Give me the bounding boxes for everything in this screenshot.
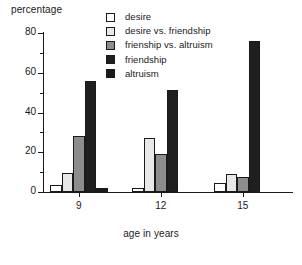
- bar: [96, 188, 108, 192]
- bar: [214, 183, 226, 192]
- bar: [73, 136, 85, 192]
- bar: [226, 174, 238, 192]
- y-tick-label: 40: [0, 107, 36, 117]
- bar: [62, 173, 74, 192]
- y-minor-tick: [40, 53, 43, 54]
- y-tick: [38, 113, 43, 114]
- x-tick: [243, 193, 244, 197]
- y-tick-label: 20: [0, 146, 36, 156]
- x-axis-title: age in years: [0, 228, 302, 239]
- y-tick-label: 80: [0, 27, 36, 37]
- y-tick-label: 0: [0, 186, 36, 196]
- y-tick: [38, 73, 43, 74]
- y-tick-label: 60: [0, 67, 36, 77]
- x-tick-label: 15: [223, 200, 263, 211]
- y-axis-title: percentage: [11, 4, 62, 15]
- bar: [237, 177, 249, 192]
- y-tick: [38, 33, 43, 34]
- y-minor-tick: [40, 172, 43, 173]
- y-tick: [38, 192, 43, 193]
- x-tick: [161, 193, 162, 197]
- bar: [50, 185, 62, 192]
- x-tick-label: 9: [59, 200, 99, 211]
- x-tick-label: 12: [141, 200, 181, 211]
- x-axis-line: [43, 192, 293, 193]
- y-minor-tick: [40, 132, 43, 133]
- bar: [132, 188, 144, 192]
- bar: [144, 138, 156, 192]
- y-tick: [38, 152, 43, 153]
- legend-label: desire: [125, 12, 151, 22]
- bar: [155, 154, 167, 192]
- bar: [249, 41, 261, 192]
- plot-area: [44, 33, 290, 192]
- y-minor-tick: [40, 93, 43, 94]
- x-tick: [79, 193, 80, 197]
- bar: [167, 90, 179, 192]
- legend-swatch-desire: [106, 13, 115, 22]
- bar-chart: percentage desire desire vs. friendship …: [0, 0, 302, 265]
- legend-item: desire: [106, 10, 256, 24]
- bar: [85, 81, 97, 192]
